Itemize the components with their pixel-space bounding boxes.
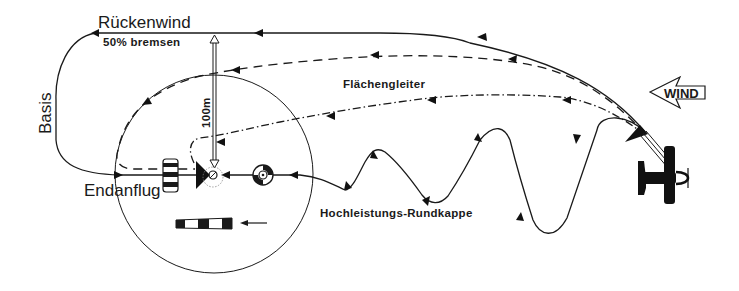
arrow-wavy-2 bbox=[516, 212, 524, 221]
target-center-slash bbox=[210, 172, 216, 178]
arrow-exit-aircraft bbox=[625, 125, 648, 142]
arrow-final bbox=[114, 171, 123, 179]
arrow-wavy-7 bbox=[289, 171, 298, 179]
landing-pattern-diagram: 100m WIND bbox=[0, 0, 739, 291]
height-marker-arrow-top bbox=[210, 35, 219, 43]
arrow-dashed-3 bbox=[231, 66, 240, 74]
arrow-dashed-2 bbox=[370, 51, 379, 59]
arrow-dashdot-2 bbox=[427, 96, 436, 104]
flat-glider-path-dashdot bbox=[190, 95, 645, 165]
base-label: Basis bbox=[36, 92, 55, 134]
height-marker-label: 100m bbox=[200, 97, 212, 128]
arrow-wavy-4 bbox=[422, 196, 430, 206]
flat-glider-label: Flächengleiter bbox=[343, 78, 425, 90]
aircraft-icon bbox=[638, 131, 688, 204]
windsock-horizontal-icon bbox=[176, 218, 232, 229]
round-canopy-label: Hochleistungs-Rundkappe bbox=[320, 207, 473, 219]
downwind-note-label: 50% bremsen bbox=[103, 36, 180, 48]
round-canopy-icon bbox=[253, 165, 273, 185]
arrow-wavy-3 bbox=[474, 133, 482, 142]
arrow-wavy-8 bbox=[221, 171, 230, 179]
arrow-wavy-1 bbox=[573, 134, 581, 144]
arrow-dashdot-1 bbox=[562, 96, 571, 104]
arrow-downwind-2 bbox=[254, 29, 263, 37]
downwind-label: Rückenwind bbox=[98, 13, 191, 32]
wind-direction-small-arrow-head bbox=[240, 220, 248, 226]
arrow-dashdot-4 bbox=[216, 138, 225, 146]
arrow-downwind-1 bbox=[477, 33, 487, 41]
final-label: Endanflug bbox=[84, 181, 161, 200]
windsock-vertical-icon bbox=[163, 159, 178, 192]
wind-label: WIND bbox=[664, 86, 699, 101]
arrow-wavy-6 bbox=[344, 181, 352, 190]
